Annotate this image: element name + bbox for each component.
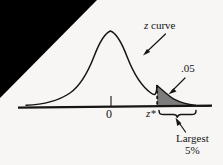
- largest-5-percent-label: Largest5%: [176, 133, 209, 156]
- z-curve-label-rest: curve: [148, 19, 175, 31]
- z-curve-label: z curve: [144, 20, 175, 31]
- largest-word: Largest: [176, 132, 209, 144]
- tail-area-label: .05: [181, 63, 195, 74]
- axis-label-zero: 0: [106, 108, 112, 120]
- z-curve-figure: z curve .05 0 z* Largest5%: [0, 0, 223, 165]
- largest-percent-value: 5%: [176, 145, 209, 156]
- axis-label-z-star: z*: [146, 108, 156, 119]
